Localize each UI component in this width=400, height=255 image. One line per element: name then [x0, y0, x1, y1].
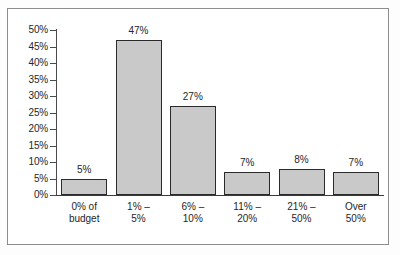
bar-value-label: 8%	[273, 155, 331, 165]
x-axis-category-line: 20%	[216, 213, 278, 225]
x-axis-category-label: 11% –20%	[216, 201, 278, 225]
x-axis-category-line: 21% –	[271, 201, 333, 213]
y-axis-labels: 50%45%40%35%30%25%20%15%10%5%0%	[0, 0, 48, 255]
bar-value-label: 7%	[327, 158, 385, 168]
x-axis-category-label: 0% ofbudget	[53, 201, 115, 225]
plot-area: 5%47%27%7%8%7%	[57, 30, 383, 195]
bar[interactable]	[116, 40, 162, 195]
y-axis-tick-label: 40%	[4, 58, 48, 68]
y-axis-tick-label: 5%	[4, 174, 48, 184]
x-axis-category-line: 11% –	[216, 201, 278, 213]
x-axis-category-line: 0% of	[53, 201, 115, 213]
y-axis-tick-label: 30%	[4, 91, 48, 101]
x-axis-category-line: 1% –	[108, 201, 170, 213]
bar-value-label: 5%	[55, 165, 113, 175]
bar[interactable]	[61, 179, 107, 196]
y-axis-tick-label: 25%	[4, 108, 48, 118]
y-axis-tick-label: 50%	[4, 25, 48, 35]
y-axis-tick-label: 35%	[4, 75, 48, 85]
x-axis-category-line: 50%	[271, 213, 333, 225]
chart-figure: 50%45%40%35%30%25%20%15%10%5%0% 5%47%27%…	[0, 0, 400, 255]
x-axis-category-line: Over	[325, 201, 387, 213]
bar[interactable]	[224, 172, 270, 195]
x-axis-category-label: 1% –5%	[108, 201, 170, 225]
x-axis-category-line: 5%	[108, 213, 170, 225]
bar-group: 5%	[61, 30, 107, 195]
bar[interactable]	[333, 172, 379, 195]
bar-value-label: 27%	[164, 92, 222, 102]
bar-value-label: 7%	[218, 158, 276, 168]
y-axis-tick-label: 15%	[4, 141, 48, 151]
bar-group: 7%	[224, 30, 270, 195]
x-axis-category-line: 50%	[325, 213, 387, 225]
bar-value-label: 47%	[110, 26, 168, 36]
x-axis-category-label: 21% –50%	[271, 201, 333, 225]
x-axis-category-line: 10%	[162, 213, 224, 225]
bar-group: 27%	[170, 30, 216, 195]
x-axis-line	[56, 195, 384, 196]
bar-group: 47%	[116, 30, 162, 195]
y-axis-tick-label: 45%	[4, 42, 48, 52]
bar-group: 7%	[333, 30, 379, 195]
y-axis-tick-label: 0%	[4, 190, 48, 200]
x-axis-category-label: 6% –10%	[162, 201, 224, 225]
y-axis-tick-label: 10%	[4, 157, 48, 167]
bar[interactable]	[170, 106, 216, 195]
y-axis-tick-label: 20%	[4, 124, 48, 134]
x-axis-labels: 0% ofbudget1% –5%6% –10%11% –20%21% –50%…	[57, 201, 383, 241]
bar[interactable]	[279, 169, 325, 195]
x-axis-category-line: budget	[53, 213, 115, 225]
x-axis-category-label: Over50%	[325, 201, 387, 225]
x-axis-category-line: 6% –	[162, 201, 224, 213]
bar-group: 8%	[279, 30, 325, 195]
